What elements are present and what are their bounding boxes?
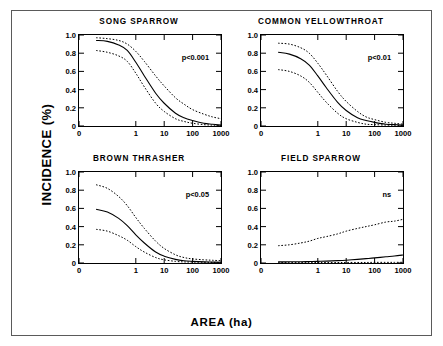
x-tick-label: 1 [316, 266, 320, 275]
x-tick-label: 100 [186, 129, 199, 138]
panel-title: COMMON YELLOWTHROAT [228, 17, 414, 26]
y-tick-label: 0.2 [247, 240, 258, 249]
x-tick-label: 1 [316, 129, 320, 138]
curve-dotted [96, 38, 221, 119]
significance-annotation: p<0.01 [368, 53, 391, 62]
y-tick-label: 0.6 [247, 67, 258, 76]
plot-area: 1.00.80.60.40.2001101001000ns [260, 171, 404, 264]
y-tick-label: 0.2 [65, 240, 76, 249]
y-tick-label: 1.0 [65, 31, 76, 40]
x-tick-label: 1000 [395, 266, 412, 275]
plot-area: 1.00.80.60.40.2001101001000p<0.001 [78, 34, 222, 127]
y-tick-label: 0 [254, 259, 258, 268]
x-tick-label: 1000 [213, 129, 230, 138]
panel-common-yellowthroat: COMMON YELLOWTHROAT 1.00.80.60.40.200110… [228, 17, 414, 157]
x-tick-label: 1 [134, 129, 138, 138]
x-tick-label: 0 [77, 266, 81, 275]
x-tick-label: 1000 [395, 129, 412, 138]
y-tick-label: 0.8 [247, 49, 258, 58]
figure-border: INCIDENCE (%) AREA (ha) SONG SPARROW 1.0… [11, 10, 432, 336]
y-tick-label: 0.4 [247, 85, 258, 94]
y-tick-label: 0.4 [247, 222, 258, 231]
panel-field-sparrow: FIELD SPARROW 1.00.80.60.40.200110100100… [228, 154, 414, 296]
panel-title: BROWN THRASHER [50, 154, 228, 163]
x-tick-label: 0 [259, 129, 263, 138]
y-tick-label: 0.6 [65, 67, 76, 76]
x-axis-label: AREA (ha) [12, 316, 431, 328]
x-tick-label: 100 [368, 266, 381, 275]
y-tick-label: 0.8 [65, 186, 76, 195]
panel-brown-thrasher: BROWN THRASHER 1.00.80.60.40.20011010010… [50, 154, 228, 296]
x-tick-label: 1000 [213, 266, 230, 275]
x-tick-label: 100 [186, 266, 199, 275]
curve-dotted [278, 70, 403, 126]
x-tick-label: 0 [77, 129, 81, 138]
y-tick-label: 0.8 [65, 49, 76, 58]
curve-dotted [96, 229, 221, 262]
curve-solid [278, 52, 403, 125]
y-tick-label: 0.6 [247, 204, 258, 213]
figure-root: INCIDENCE (%) AREA (ha) SONG SPARROW 1.0… [0, 0, 443, 346]
x-tick-label: 0 [259, 266, 263, 275]
y-tick-label: 1.0 [247, 168, 258, 177]
plot-area: 1.00.80.60.40.2001101001000p<0.01 [260, 34, 404, 127]
x-tick-label: 1 [134, 266, 138, 275]
x-tick-label: 100 [368, 129, 381, 138]
y-tick-label: 0.4 [65, 85, 76, 94]
x-tick-label: 10 [160, 129, 168, 138]
y-tick-label: 1.0 [65, 168, 76, 177]
panel-title: SONG SPARROW [50, 17, 228, 26]
x-tick-label: 10 [342, 266, 350, 275]
significance-annotation: ns [382, 190, 391, 199]
significance-annotation: p<0.05 [186, 190, 209, 199]
y-tick-label: 0 [72, 122, 76, 131]
curve-solid [96, 209, 221, 262]
panel-song-sparrow: SONG SPARROW 1.00.80.60.40.2001101001000… [50, 17, 228, 157]
x-tick-label: 10 [342, 129, 350, 138]
plot-area: 1.00.80.60.40.2001101001000p<0.05 [78, 171, 222, 264]
y-tick-label: 0.2 [247, 103, 258, 112]
y-tick-label: 0.8 [247, 186, 258, 195]
y-tick-label: 0.6 [65, 204, 76, 213]
curve-dotted [278, 219, 403, 245]
y-tick-label: 0.4 [65, 222, 76, 231]
y-tick-label: 0.2 [65, 103, 76, 112]
x-tick-label: 10 [160, 266, 168, 275]
significance-annotation: p<0.001 [182, 53, 209, 62]
y-tick-label: 0 [72, 259, 76, 268]
curve-solid [278, 255, 403, 262]
y-tick-label: 0 [254, 122, 258, 131]
panel-title: FIELD SPARROW [228, 154, 414, 163]
y-tick-label: 1.0 [247, 31, 258, 40]
